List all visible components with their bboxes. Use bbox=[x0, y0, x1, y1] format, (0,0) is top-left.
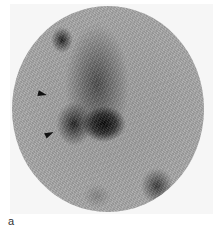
scintigraphy-figure: a bbox=[0, 0, 213, 228]
panel-label: a bbox=[8, 215, 14, 227]
scan-noise-texture bbox=[12, 6, 204, 212]
